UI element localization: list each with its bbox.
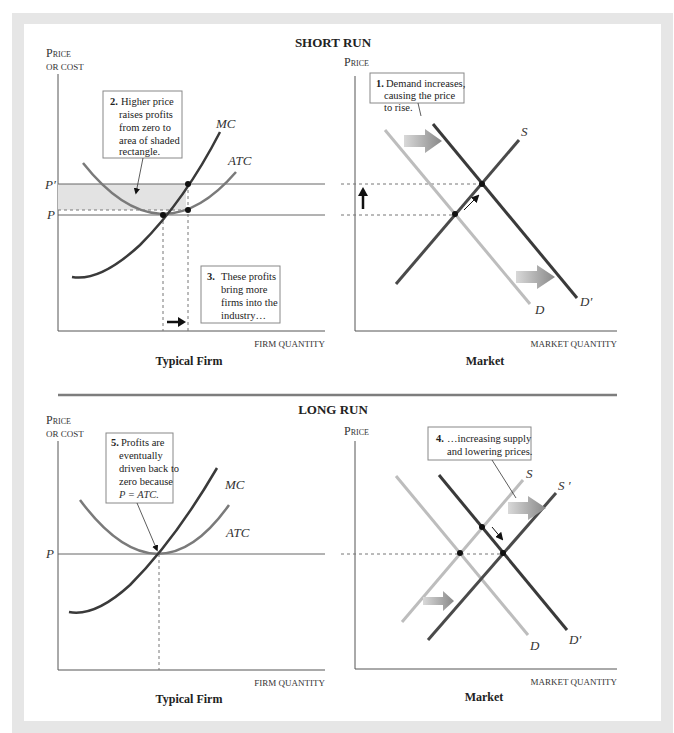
note-5-line: zero because [119, 476, 173, 487]
short-run-market-panel: Price S D D′ 1. Demand increases, causin… [341, 55, 617, 368]
note-4-pointer [492, 460, 516, 498]
intermediate-dot [457, 550, 463, 556]
profit-rectangle [58, 184, 186, 210]
long-run-firm-panel: Price or cost P MC ATC 5. Profits are ev… [45, 413, 325, 706]
supply-shift-arrow [508, 496, 546, 520]
s-label: S [526, 466, 533, 481]
note-2-line: rectangle. [119, 146, 160, 157]
s-label: S [521, 124, 528, 139]
p-label: P [46, 207, 55, 222]
demand-shift-arrow [404, 129, 442, 153]
atc-dot [185, 207, 191, 213]
note-3-number: 3. [207, 271, 215, 282]
equilibrium-dot [160, 212, 166, 218]
y-axis-label-line2: or cost [46, 62, 84, 72]
old-equilibrium-dot [452, 211, 458, 217]
note-1-line: causing the price [384, 90, 455, 101]
y-axis-label: Price [344, 55, 369, 69]
new-equilibrium-dot [500, 550, 506, 556]
note-1-number: 1. [376, 78, 384, 89]
quantity-increase-arrowhead [178, 317, 186, 327]
d-label: D [534, 302, 545, 317]
x-axis-label: Firm quantity [254, 678, 325, 688]
p-label: P [45, 546, 54, 561]
panel-caption: Typical Firm [156, 354, 223, 368]
note-2-line: raises profits [119, 109, 173, 120]
y-axis-label-line1: Price [46, 46, 71, 60]
note-1-line: to rise. [384, 102, 413, 113]
x-axis-label: Market quantity [530, 677, 617, 687]
note-4-line: and lowering prices. [447, 446, 532, 457]
mc-label: MC [224, 477, 245, 492]
note-3-line: industry… [221, 310, 266, 321]
note-2-line: area of shaded [119, 135, 180, 146]
note-5-line: P = ATC. [118, 489, 159, 500]
y-axis-label: Price [46, 46, 71, 60]
long-run-market-panel: Price S S ′ D D′ 4. …increasing supply a… [341, 424, 617, 704]
mc-label: MC [215, 116, 236, 131]
panel-caption: Market [465, 690, 504, 704]
price-up-arrowhead [358, 187, 368, 196]
short-run-title: SHORT RUN [295, 35, 372, 50]
x-axis-label: Firm quantity [254, 339, 325, 349]
note-1-pointer [418, 103, 421, 116]
new-price-dot [185, 181, 191, 187]
short-run-firm-panel: Price or cost P′ P MC ATC 2. Higher pric… [44, 46, 325, 368]
x-axis-label: Market quantity [530, 339, 617, 349]
atc-label: ATC [225, 525, 250, 540]
note-2-line: Higher price [121, 96, 174, 107]
atc-label: ATC [227, 153, 252, 168]
y-axis-label-line2: or cost [46, 429, 84, 439]
s-prime-label: S ′ [558, 478, 571, 493]
new-equilibrium-dot [479, 181, 485, 187]
panel-caption: Typical Firm [156, 692, 223, 706]
old-equilibrium-dot [479, 524, 485, 530]
note-2-number: 2. [110, 96, 118, 107]
demand-shift-arrow [516, 265, 555, 289]
note-5-line: Profits are [121, 437, 165, 448]
movement-arrow [492, 527, 502, 539]
y-axis-label-line1: Price [46, 413, 71, 427]
note-2-line: from zero to [119, 122, 171, 133]
note-4-line: …increasing supply [447, 433, 532, 444]
d-label: D [529, 638, 540, 653]
note-1-text: 1. Demand increases, causing the price [376, 78, 468, 101]
note-5-number: 5. [111, 437, 119, 448]
y-axis-label: Price [344, 424, 369, 438]
note-4-number: 4. [436, 433, 444, 444]
note-3-line: bring more [221, 284, 268, 295]
note-1-line: Demand increases, [386, 78, 465, 89]
note-3-line: firms into the [221, 297, 278, 308]
p-prime-label: P′ [44, 177, 56, 192]
note-5-line: eventually [119, 450, 163, 461]
demand-curve-d [396, 476, 528, 635]
note-5-line: driven back to [119, 463, 179, 474]
long-run-title: LONG RUN [298, 402, 368, 417]
supply-curve-s [396, 140, 519, 284]
d-prime-label: D′ [568, 632, 581, 647]
note-3-line: These profits [221, 271, 276, 282]
note-5-pointer [137, 503, 157, 550]
panel-caption: Market [466, 354, 505, 368]
d-prime-label: D′ [579, 294, 592, 309]
atc-curve [80, 500, 229, 554]
